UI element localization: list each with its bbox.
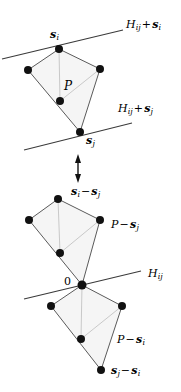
- label-P-minus-si-operator: −: [125, 333, 136, 346]
- label-polygon-P: P: [64, 80, 72, 92]
- label-hyperplane-upper-base: H: [126, 18, 136, 31]
- label-hyperplane-upper-term-sub: i: [159, 23, 162, 32]
- label-hyperplane-upper: Hij+si: [126, 19, 161, 32]
- point-origin: [78, 281, 87, 290]
- double-arrow-group: [75, 154, 81, 183]
- label-origin: 0: [64, 276, 71, 287]
- label-sj-minus-si-operator: −: [120, 364, 131, 377]
- label-polygon-P-minus-si: P−si: [117, 334, 145, 347]
- label-sj-minus-si-term2-sub: i: [138, 369, 141, 378]
- label-si-minus-sj: si−sj: [71, 186, 100, 199]
- label-P-minus-sj-base: P: [111, 218, 119, 231]
- label-P-minus-si-base: P: [117, 333, 125, 346]
- label-hyperplane-lower-term-sub: j: [151, 107, 153, 116]
- point-s-j: [76, 128, 84, 136]
- point-upper-right: [96, 216, 104, 224]
- label-Hij-base: H: [148, 267, 158, 280]
- point-lower-interior: [77, 335, 85, 343]
- label-P-minus-sj-term-sub: j: [136, 223, 138, 232]
- point-upper-interior: [56, 249, 64, 257]
- point-left: [24, 66, 32, 74]
- label-hyperplane-lower: Hij+sj: [118, 103, 153, 116]
- label-P-minus-sj-operator: −: [119, 218, 130, 231]
- figure-container: Hij+si si P Hij+sj sj si−sj P−sj Hij 0 P…: [0, 0, 181, 392]
- point-interior: [56, 97, 64, 105]
- polygon-P-minus-si: [51, 285, 122, 370]
- label-si-minus-sj-term2-sub: j: [98, 190, 100, 199]
- arrow-head-up: [75, 154, 81, 163]
- point-lower-right: [118, 302, 126, 310]
- label-vertex-s-i: si: [50, 29, 59, 42]
- label-vertex-s-j-sub: j: [92, 139, 94, 148]
- label-vertex-s-i-sub: i: [56, 33, 59, 42]
- label-Hij-sub: ij: [158, 272, 163, 281]
- polygon-P-minus-sj: [29, 199, 100, 285]
- point-right: [96, 65, 104, 73]
- point-si-minus-sj: [54, 195, 62, 203]
- label-P-minus-si-term-sub: i: [142, 338, 145, 347]
- point-lower-left: [47, 302, 55, 310]
- label-sj-minus-si: sj−si: [111, 365, 140, 378]
- arrow-head-down: [75, 174, 81, 183]
- label-hyperplane-lower-base: H: [118, 102, 128, 115]
- point-sj-minus-si: [97, 366, 105, 374]
- label-hyperplane-lower-operator: +: [133, 102, 144, 115]
- label-polygon-P-minus-sj: P−sj: [111, 219, 139, 232]
- label-hyperplane-upper-operator: +: [141, 18, 152, 31]
- point-upper-left: [25, 216, 33, 224]
- point-s-i: [55, 45, 63, 53]
- label-si-minus-sj-operator: −: [80, 185, 91, 198]
- label-vertex-s-j: sj: [86, 135, 95, 148]
- label-hyperplane-Hij: Hij: [148, 268, 163, 281]
